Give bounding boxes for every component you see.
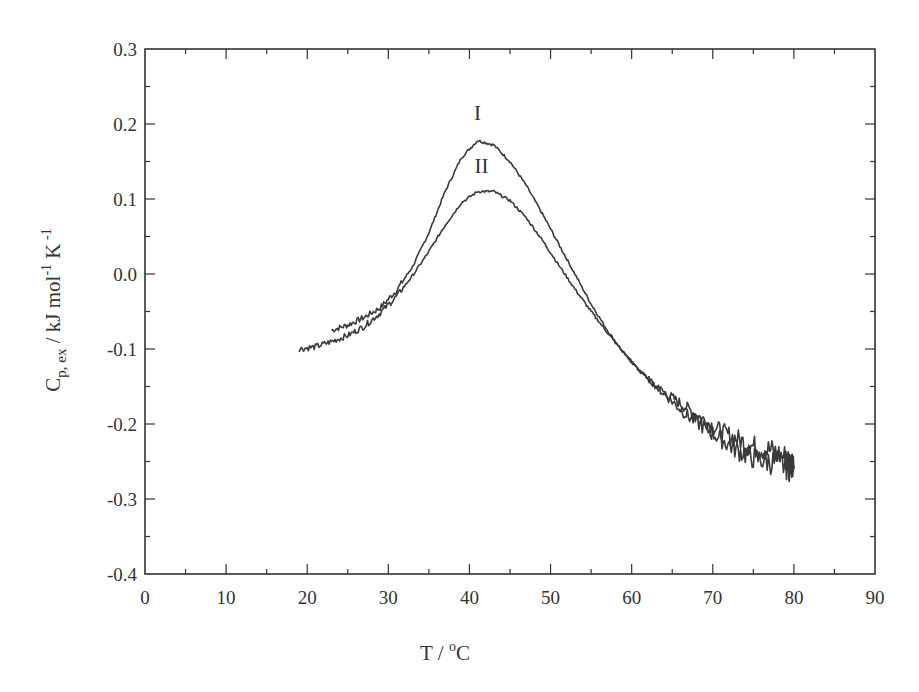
x-tick-label: 70: [703, 587, 722, 608]
y-tick-label: 0.1: [113, 189, 137, 210]
y-tick-label: 0.2: [113, 114, 137, 135]
data-series: [299, 140, 794, 481]
plot-border: [145, 49, 875, 574]
y-axis-ticks: 0.30.20.10.0-0.1-0.2-0.3-0.4: [107, 39, 875, 585]
y-tick-label: -0.1: [107, 339, 137, 360]
curve-annotations: III: [474, 101, 489, 178]
x-tick-label: 40: [460, 587, 479, 608]
plot-frame: [145, 49, 875, 574]
x-tick-label: 30: [379, 587, 398, 608]
y-tick-label: -0.2: [107, 414, 137, 435]
chart: 0102030405060708090 0.30.20.10.0-0.1-0.2…: [0, 0, 919, 692]
y-tick-label: -0.4: [107, 564, 138, 585]
y-tick-label: -0.3: [107, 489, 137, 510]
x-tick-label: 90: [866, 587, 885, 608]
y-tick-label: 0.0: [113, 264, 137, 285]
x-axis-title: T / oC: [420, 639, 470, 665]
curve-label-I: I: [474, 101, 481, 125]
x-axis-ticks: 0102030405060708090: [140, 49, 884, 608]
x-tick-label: 20: [298, 587, 317, 608]
x-tick-label: 10: [217, 587, 236, 608]
series-line-I: [332, 140, 794, 476]
curve-label-II: II: [475, 154, 489, 178]
x-tick-label: 50: [541, 587, 560, 608]
x-tick-label: 0: [140, 587, 150, 608]
y-tick-label: 0.3: [113, 39, 137, 60]
x-tick-label: 80: [784, 587, 803, 608]
y-axis-title: Cp, ex / kJ mol-1 K -1: [39, 228, 69, 391]
series-line-II: [299, 190, 794, 481]
x-tick-label: 60: [622, 587, 641, 608]
